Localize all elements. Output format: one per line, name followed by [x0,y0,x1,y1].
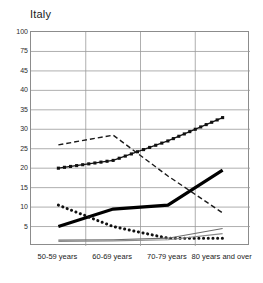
line-chart: Italy 1007545403530252015105 50-59 years… [0,0,263,283]
chart-title: Italy [30,8,51,20]
y-tick-label: 15 [4,183,28,190]
y-axis: 1007545403530252015105 [0,31,28,245]
plot-svg [31,32,250,246]
y-tick-label: 45 [4,66,28,73]
y-tick-label: 100 [4,28,28,35]
x-tick-label: 60-69 years [92,253,132,261]
y-tick-label: 5 [4,222,28,229]
y-tick-label: 20 [4,164,28,171]
y-tick-label: 75 [4,47,28,54]
x-tick-label: 80 years and over [192,253,252,261]
y-tick-label: 35 [4,105,28,112]
y-tick-label: 25 [4,144,28,151]
plot-area [30,31,249,245]
y-tick-label: 30 [4,125,28,132]
x-tick-label: 70-79 years [147,253,187,261]
y-tick-label: 40 [4,86,28,93]
y-tick-label: 10 [4,203,28,210]
x-axis: 50-59 years60-69 years70-79 years80 year… [0,249,263,269]
x-tick-label: 50-59 years [38,253,78,261]
